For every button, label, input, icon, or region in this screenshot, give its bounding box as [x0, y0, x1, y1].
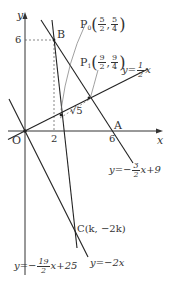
y-tick-6: 6 [15, 35, 21, 45]
p0-y-frac: 54 [111, 16, 118, 33]
p1-x-frac: 92 [98, 54, 105, 71]
x-tick-6: 6 [109, 134, 115, 144]
distance-label: √5 [70, 106, 83, 116]
origin-point [23, 129, 27, 133]
x-tick-2: 2 [51, 134, 57, 144]
point-p0-label: P0(52,54) [80, 16, 125, 33]
eq-ab: y=−32x+9 [109, 162, 161, 179]
eq-bc: y=−192x+25 [14, 258, 77, 275]
p0-x-frac: 52 [98, 16, 105, 33]
x-axis-arrow [156, 129, 163, 134]
origin-label: O [12, 135, 21, 146]
eq-half-x: y=12x [122, 62, 151, 79]
eq-neg-2x: y=−2x [90, 258, 124, 268]
point-p1 [88, 97, 91, 100]
p1-y-frac: 94 [111, 54, 118, 71]
point-b-label: B [57, 29, 65, 40]
point-b [53, 39, 56, 42]
y-axis-label: y [17, 10, 23, 21]
x-axis-label: x [157, 135, 163, 146]
diagram-canvas [0, 0, 173, 283]
y-axis-arrow [23, 12, 28, 19]
point-a-label: A [114, 120, 122, 131]
point-c-label: C(k, −2k) [77, 224, 126, 234]
point-p1-label: P1(92,94) [80, 54, 125, 71]
point-p0-foot [60, 114, 63, 117]
